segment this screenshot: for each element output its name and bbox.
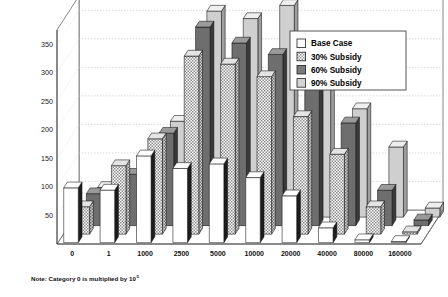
y-tick-label: 250 [41, 97, 53, 106]
bar-chart-3d: 50100150200250300350 0110002500500010000… [0, 0, 448, 297]
bar [319, 222, 337, 243]
legend-swatch [297, 52, 306, 61]
y-tick-label: 200 [41, 125, 53, 134]
x-category-label: 1 [107, 250, 111, 257]
bar [137, 150, 155, 243]
legend-label: 30% Subsidy [311, 53, 362, 62]
y-tick-label: 50 [45, 211, 53, 220]
chart-container: 50100150200250300350 0110002500500010000… [0, 0, 448, 297]
legend-swatch [297, 39, 306, 48]
bar [246, 172, 264, 243]
bar [391, 236, 409, 243]
legend-swatch [297, 65, 306, 74]
x-category-label: 10000 [245, 250, 265, 257]
y-tick-label: 300 [41, 68, 53, 77]
x-category-label: 160000 [388, 250, 411, 257]
legend-label: 90% Subsidy [311, 79, 362, 88]
bar [366, 201, 384, 234]
bar [282, 190, 300, 243]
bar [64, 182, 82, 243]
legend-swatch [297, 79, 306, 88]
bar [173, 163, 191, 243]
x-category-label: 80000 [354, 250, 374, 257]
bar [209, 158, 227, 243]
bar [100, 184, 118, 242]
y-tick-label: 350 [41, 40, 53, 49]
y-tick-label: 100 [41, 182, 53, 191]
x-category-label: 20000 [281, 250, 301, 257]
x-category-label: 1000 [137, 250, 153, 257]
bar [355, 234, 373, 243]
note-text: Note: Category 0 is multiplied by 10 [31, 275, 136, 282]
chart-legend: Base Case30% Subsidy60% Subsidy90% Subsi… [290, 31, 406, 90]
legend-label: 60% Subsidy [311, 66, 362, 75]
x-category-label: 40000 [317, 250, 337, 257]
y-tick-label: 150 [41, 154, 53, 163]
x-category-label: 5000 [210, 250, 226, 257]
x-category-label: 0 [70, 250, 74, 257]
legend-label: Base Case [311, 39, 353, 48]
legend-entry: Base Case [297, 39, 353, 48]
x-category-label: 2500 [174, 250, 190, 257]
bar [414, 214, 432, 225]
chart-note: Note: Category 0 is multiplied by 105 [31, 274, 139, 282]
bar [330, 148, 348, 234]
bar [403, 226, 421, 234]
